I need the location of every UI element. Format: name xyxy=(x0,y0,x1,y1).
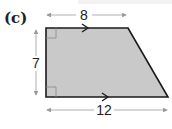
trapezoid-diagram: (c) 8 7 12 xyxy=(0,0,172,129)
dimension-height-label: 7 xyxy=(32,55,40,71)
dimension-top-label: 8 xyxy=(80,7,88,23)
trapezoid-shape xyxy=(46,28,168,97)
dimension-bottom-label: 12 xyxy=(96,102,112,118)
part-label: (c) xyxy=(4,9,27,27)
